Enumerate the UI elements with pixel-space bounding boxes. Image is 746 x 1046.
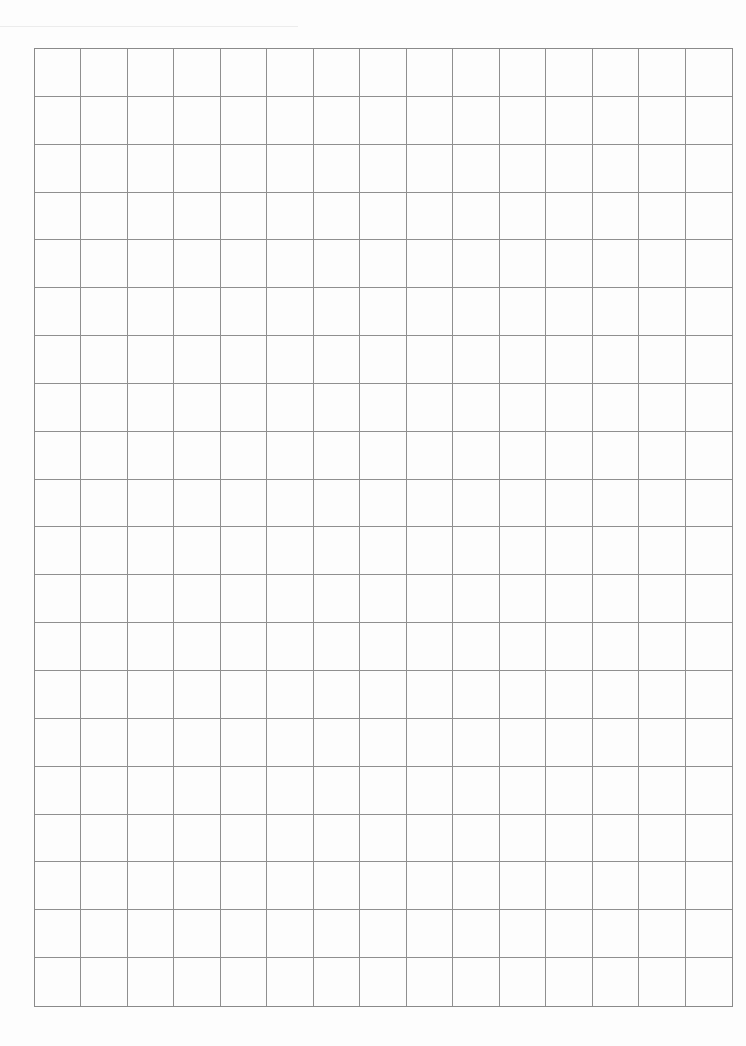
grid-cell bbox=[686, 384, 732, 432]
grid-cell bbox=[500, 623, 546, 671]
grid-cell bbox=[267, 719, 313, 767]
grid-cell bbox=[407, 288, 453, 336]
grid-cell bbox=[639, 671, 685, 719]
grid-cell bbox=[174, 910, 220, 958]
grid-cell bbox=[639, 336, 685, 384]
grid-cell bbox=[128, 384, 174, 432]
grid-cell bbox=[593, 288, 639, 336]
grid-cell bbox=[221, 862, 267, 910]
grid-cell bbox=[174, 623, 220, 671]
grid-cell bbox=[546, 480, 592, 528]
grid-cell bbox=[35, 575, 81, 623]
grid-cell bbox=[128, 480, 174, 528]
grid-cell bbox=[128, 767, 174, 815]
grid-cell bbox=[593, 480, 639, 528]
grid-cell bbox=[221, 480, 267, 528]
grid-cell bbox=[314, 49, 360, 97]
grid-cell bbox=[128, 432, 174, 480]
grid-cell bbox=[81, 97, 127, 145]
grid-cell bbox=[221, 240, 267, 288]
square-grid bbox=[34, 48, 733, 1007]
grid-cell bbox=[221, 767, 267, 815]
grid-cell bbox=[593, 623, 639, 671]
grid-cell bbox=[35, 432, 81, 480]
grid-cell bbox=[128, 958, 174, 1006]
grid-cell bbox=[35, 767, 81, 815]
grid-cell bbox=[360, 575, 406, 623]
grid-cell bbox=[453, 384, 499, 432]
grid-cell bbox=[593, 527, 639, 575]
grid-cell bbox=[546, 910, 592, 958]
grid-cell bbox=[500, 767, 546, 815]
grid-cell bbox=[639, 623, 685, 671]
grid-cell bbox=[639, 815, 685, 863]
grid-cell bbox=[360, 671, 406, 719]
grid-cell bbox=[500, 719, 546, 767]
grid-cell bbox=[546, 862, 592, 910]
grid-cell bbox=[593, 958, 639, 1006]
grid-cell bbox=[174, 97, 220, 145]
grid-cell bbox=[407, 671, 453, 719]
grid-cell bbox=[453, 671, 499, 719]
grid-cell bbox=[360, 815, 406, 863]
grid-cell bbox=[221, 910, 267, 958]
grid-cell bbox=[35, 910, 81, 958]
grid-cell bbox=[546, 719, 592, 767]
grid-cell bbox=[686, 671, 732, 719]
grid-cell bbox=[407, 862, 453, 910]
grid-cell bbox=[593, 910, 639, 958]
grid-cell bbox=[453, 97, 499, 145]
grid-cell bbox=[593, 145, 639, 193]
grid-cell bbox=[686, 719, 732, 767]
grid-cell bbox=[81, 862, 127, 910]
grid-cell bbox=[639, 49, 685, 97]
grid-cell bbox=[407, 480, 453, 528]
grid-cell bbox=[407, 815, 453, 863]
grid-cell bbox=[314, 145, 360, 193]
grid-cell bbox=[360, 623, 406, 671]
grid-cell bbox=[453, 910, 499, 958]
grid-cell bbox=[174, 767, 220, 815]
grid-cell bbox=[128, 719, 174, 767]
grid-cell bbox=[314, 288, 360, 336]
grid-cell bbox=[686, 623, 732, 671]
grid-cell bbox=[35, 958, 81, 1006]
grid-cell bbox=[81, 575, 127, 623]
grid-cell bbox=[500, 288, 546, 336]
grid-cell bbox=[360, 145, 406, 193]
grid-cell bbox=[686, 862, 732, 910]
grid-cell bbox=[453, 336, 499, 384]
grid-cell bbox=[686, 145, 732, 193]
grid-cell bbox=[360, 240, 406, 288]
grid-cell bbox=[128, 623, 174, 671]
grid-cell bbox=[453, 288, 499, 336]
grid-cell bbox=[546, 527, 592, 575]
grid-cell bbox=[314, 958, 360, 1006]
grid-cell bbox=[546, 623, 592, 671]
grid-cell bbox=[174, 145, 220, 193]
grid-cell bbox=[360, 527, 406, 575]
grid-cell bbox=[500, 575, 546, 623]
grid-cell bbox=[639, 575, 685, 623]
grid-cell bbox=[639, 97, 685, 145]
grid-cell bbox=[593, 671, 639, 719]
grid-cell bbox=[546, 432, 592, 480]
grid-cell bbox=[453, 145, 499, 193]
grid-cell bbox=[453, 432, 499, 480]
grid-cell bbox=[81, 671, 127, 719]
grid-cell bbox=[546, 958, 592, 1006]
grid-cell bbox=[221, 384, 267, 432]
grid-cell bbox=[267, 336, 313, 384]
grid-cell bbox=[128, 862, 174, 910]
grid-cell bbox=[500, 240, 546, 288]
grid-cell bbox=[500, 480, 546, 528]
grid-cell bbox=[407, 193, 453, 241]
grid-cell bbox=[546, 767, 592, 815]
grid-cell bbox=[314, 910, 360, 958]
grid-cell bbox=[407, 240, 453, 288]
grid-cell bbox=[407, 49, 453, 97]
grid-cell bbox=[360, 384, 406, 432]
grid-cell bbox=[35, 862, 81, 910]
grid-cell bbox=[500, 384, 546, 432]
grid-cell bbox=[546, 575, 592, 623]
